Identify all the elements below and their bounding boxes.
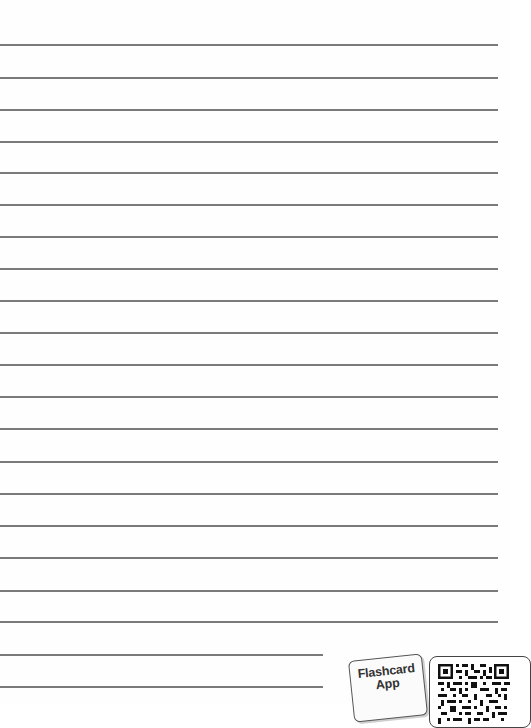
ruled-line [0, 268, 498, 270]
ruled-line [0, 44, 498, 46]
ruled-line [0, 109, 498, 111]
ruled-line [0, 204, 498, 206]
qr-code-icon [438, 664, 528, 728]
ruled-line [0, 493, 498, 495]
ruled-line [0, 396, 498, 398]
ruled-line [0, 590, 498, 592]
ruled-line [0, 686, 323, 688]
badge-label: Flashcard App [350, 661, 424, 694]
ruled-line [0, 621, 498, 623]
flashcard-app-badge: Flashcard App [348, 653, 428, 722]
qr-code-box[interactable] [429, 656, 531, 728]
ruled-line [0, 300, 498, 302]
ruled-line [0, 141, 498, 143]
ruled-line [0, 525, 498, 527]
ruled-line [0, 557, 498, 559]
ruled-line [0, 77, 498, 79]
ruled-line [0, 172, 498, 174]
ruled-line [0, 332, 498, 334]
ruled-line [0, 236, 498, 238]
ruled-line [0, 364, 498, 366]
ruled-line [0, 428, 498, 430]
ruled-line [0, 654, 323, 656]
ruled-line [0, 461, 498, 463]
